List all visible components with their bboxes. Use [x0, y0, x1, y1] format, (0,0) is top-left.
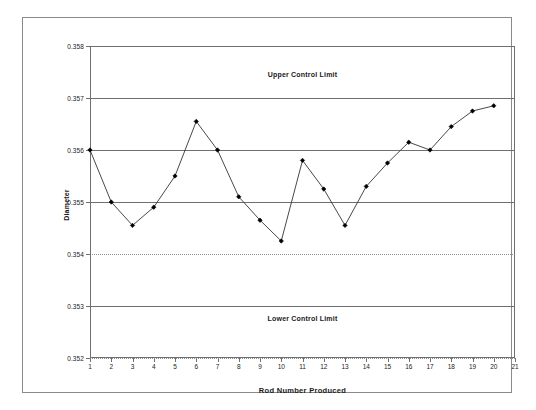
x-tick-label: 9	[258, 363, 262, 370]
chart-page: Diameter Rod Number Produced 0.3520.3530…	[0, 0, 536, 410]
x-axis-title: Rod Number Produced	[90, 386, 515, 395]
x-tick-label: 5	[173, 363, 177, 370]
x-tick-label: 14	[363, 363, 370, 370]
x-tick-label: 20	[490, 363, 497, 370]
x-tick-label: 2	[109, 363, 113, 370]
plot-area	[90, 46, 515, 358]
x-tick-label: 13	[341, 363, 348, 370]
chart-frame: Diameter Rod Number Produced 0.3520.3530…	[22, 17, 512, 393]
x-tick-label: 12	[320, 363, 327, 370]
x-tick-label: 1	[88, 363, 92, 370]
gridline-0.352	[90, 358, 515, 359]
series-line	[90, 106, 494, 241]
data-point-marker	[343, 223, 347, 227]
y-tick-label: 0.352	[67, 355, 84, 362]
y-tick-label: 0.358	[67, 43, 84, 50]
y-tick-label: 0.357	[67, 95, 84, 102]
x-tick-label: 4	[152, 363, 156, 370]
y-tick-label: 0.355	[67, 199, 84, 206]
x-tick-label: 16	[405, 363, 412, 370]
y-tick-label: 0.353	[67, 303, 84, 310]
y-tick-label: 0.354	[67, 251, 84, 258]
x-tick-label: 11	[299, 363, 306, 370]
x-tick-label: 10	[278, 363, 285, 370]
x-tick-label: 7	[216, 363, 220, 370]
x-tick-mark	[515, 358, 516, 362]
x-tick-label: 3	[131, 363, 135, 370]
data-point-marker	[88, 148, 92, 152]
x-tick-label: 18	[448, 363, 455, 370]
x-tick-label: 6	[194, 363, 198, 370]
x-tick-label: 17	[426, 363, 433, 370]
y-tick-label: 0.356	[67, 147, 84, 154]
x-tick-label: 19	[469, 363, 476, 370]
data-point-marker	[492, 104, 496, 108]
x-tick-label: 8	[237, 363, 241, 370]
data-series	[90, 46, 515, 358]
x-tick-label: 15	[384, 363, 391, 370]
x-tick-label: 21	[511, 363, 518, 370]
